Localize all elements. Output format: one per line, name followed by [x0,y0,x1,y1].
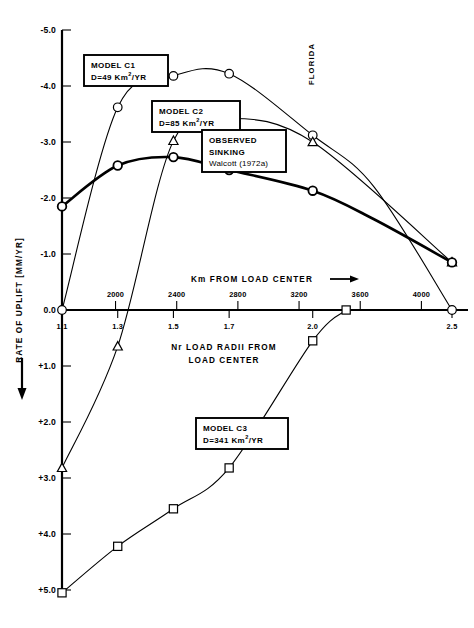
x-nr-tick-label: 2.0 [307,322,318,331]
y-tick-label: -3.0 [40,137,56,147]
y-tick-label: +2.0 [38,417,56,427]
data-point-marker [58,589,66,597]
annotation-line: SINKING [209,148,245,157]
y-tick-label: +3.0 [38,473,56,483]
y-tick-label: -2.0 [40,193,56,203]
florida-label: FLORIDA [307,43,316,85]
y-tick-label: +1.0 [38,361,56,371]
annotation-line: MODEL C2 [159,107,204,116]
data-point-marker [114,542,122,550]
series-line [62,310,346,593]
annotation-line: Walcott (1972a) [209,159,268,168]
x-km-tick-label: 2800 [229,290,246,299]
annotation-c3[interactable]: MODEL C3D=341 Km2/YR [196,418,288,449]
y-axis-title: RATE OF UPLIFT [MM/YR] [15,237,24,362]
uplift-rate-figure: -5.0-4.0-3.0-2.0-1.00.0+1.0+2.0+3.0+4.0+… [0,0,474,628]
x-axis-bottom-title-line1: Nr LOAD RADII FROM [171,343,276,352]
x-axis-arrow-icon [330,276,359,283]
annotation-c2[interactable]: MODEL C2D=85 Km2/YR [152,101,240,132]
data-point-marker [169,153,178,162]
x-nr-tick-label: 1.5 [168,322,179,331]
y-tick-label: 0.0 [43,305,56,315]
x-km-tick-label: 2000 [107,290,124,299]
data-point-marker [113,161,122,170]
y-axis-arrow-icon [18,358,27,400]
data-point-marker [169,72,178,81]
data-point-marker [169,136,178,144]
x-km-tick-label: 2400 [168,290,185,299]
x-nr-tick-label: 1.7 [224,322,235,331]
data-point-marker [113,103,122,112]
data-point-marker [448,258,457,267]
annotation-line: MODEL C3 [203,424,248,433]
chart-canvas: -5.0-4.0-3.0-2.0-1.00.0+1.0+2.0+3.0+4.0+… [0,0,474,628]
annotation-line: D=49 Km2/YR [91,71,146,81]
x-km-tick-label: 4000 [413,290,430,299]
data-point-marker [342,306,350,314]
x-nr-tick-label: 1.3 [112,322,123,331]
data-point-marker [309,337,317,345]
data-point-marker [57,463,66,471]
data-point-marker [58,306,67,315]
axes: -5.0-4.0-3.0-2.0-1.00.0+1.0+2.0+3.0+4.0+… [15,25,468,595]
data-point-marker [113,342,122,350]
x-axis-top-title: Km FROM LOAD CENTER [191,275,313,284]
annotation-line: D=341 Km2/YR [203,434,263,444]
x-axis-bottom-title-line2: LOAD CENTER [188,356,259,365]
x-nr-tick-label: 1.1 [57,322,68,331]
annotation-line: OBSERVED [209,136,257,145]
annotation-line: D=85 Km2/YR [159,117,214,127]
annotation-line: MODEL C1 [91,61,136,70]
data-point-marker [308,186,317,195]
data-point-marker [169,505,177,513]
data-point-marker [448,306,457,315]
x-km-tick-label: 3200 [290,290,307,299]
x-km-tick-label: 3600 [352,290,369,299]
annotation-observed[interactable]: OBSERVEDSINKINGWalcott (1972a) [202,130,286,172]
y-tick-label: +4.0 [38,529,56,539]
y-tick-label: -4.0 [40,81,56,91]
annotation-c1[interactable]: MODEL C1D=49 Km2/YR [84,55,168,86]
y-tick-label: +5.0 [38,585,56,595]
x-nr-tick-label: 2.5 [447,322,458,331]
data-point-marker [58,202,67,211]
y-tick-label: -5.0 [40,25,56,35]
data-point-marker [225,69,234,78]
y-tick-label: -1.0 [40,249,56,259]
data-point-marker [225,464,233,472]
